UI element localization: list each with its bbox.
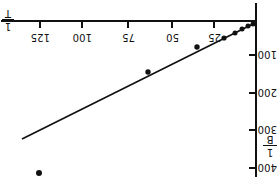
data-point — [233, 31, 238, 36]
x-axis-title: 1 T — [2, 8, 14, 31]
plot-figure: 25 50 75 100 125 100 200 300 400 1 B 1 T — [0, 0, 279, 181]
plot-svg — [0, 0, 279, 181]
data-point — [145, 69, 150, 74]
y-axis-title-denominator: B — [263, 134, 277, 144]
x-tick-label-125: 125 — [30, 32, 50, 43]
y-axis-title-fraction-bar — [263, 145, 277, 146]
y-tick-label-200: 200 — [257, 87, 277, 98]
y-tick-label-400: 400 — [257, 162, 277, 173]
y-axis-title-numerator: 1 — [263, 147, 277, 157]
x-tick-label-50: 50 — [166, 32, 179, 43]
y-axis-ticks — [249, 55, 256, 168]
y-axis-title: 1 B — [263, 134, 277, 157]
data-point — [36, 170, 42, 176]
x-axis-title-fraction-bar — [2, 19, 14, 20]
x-tick-label-75: 75 — [122, 32, 135, 43]
x-axis-title-denominator: T — [2, 8, 14, 18]
data-point — [251, 22, 256, 27]
figure-canvas: 25 50 75 100 125 100 200 300 400 1 B 1 T — [0, 0, 279, 181]
data-point — [221, 35, 226, 40]
y-tick-label-100: 100 — [257, 49, 277, 60]
data-points — [36, 22, 256, 177]
data-point — [240, 27, 245, 32]
x-tick-label-25: 25 — [208, 32, 221, 43]
x-axis-title-numerator: 1 — [2, 21, 14, 31]
x-axis-ticks — [40, 21, 214, 28]
data-point — [246, 24, 251, 29]
x-tick-label-100: 100 — [72, 32, 92, 43]
data-point — [194, 44, 199, 49]
